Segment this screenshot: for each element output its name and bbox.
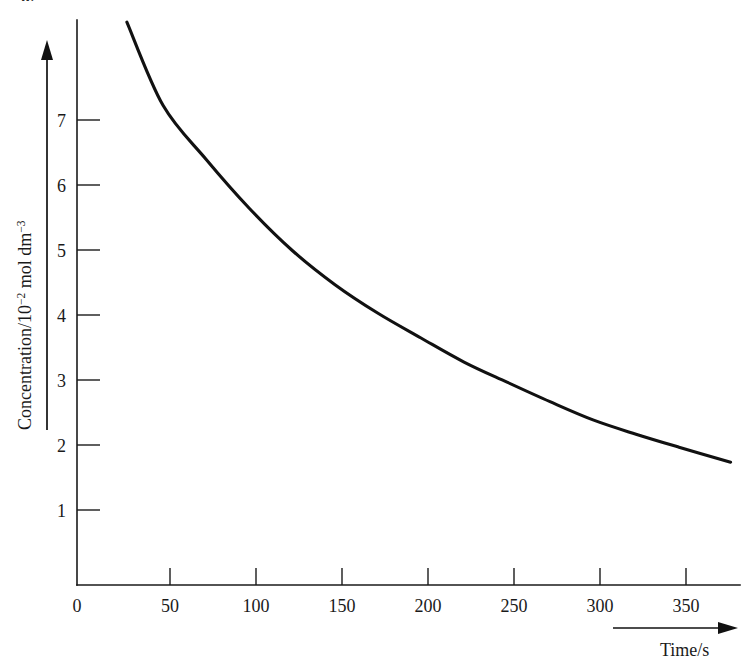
y-axis-ticks — [77, 120, 100, 510]
y-tick-label-4: 4 — [57, 306, 66, 326]
x-tick-label-300: 300 — [587, 596, 614, 616]
y-arrow-head — [41, 40, 53, 60]
x-tick-label-150: 150 — [329, 596, 356, 616]
x-axis-ticks — [170, 568, 686, 585]
x-axis-tick-labels: 0 50 100 150 200 250 300 350 — [73, 596, 700, 616]
y-axis-caption: Concentration/10−2 mol dm−3 — [15, 220, 35, 430]
y-caption-part-mid: mol dm — [15, 233, 35, 293]
x-tick-label-0: 0 — [73, 596, 82, 616]
x-axis-arrow — [613, 622, 738, 634]
x-tick-label-350: 350 — [673, 596, 700, 616]
y-tick-label-7: 7 — [57, 111, 66, 131]
y-tick-label-2: 2 — [57, 436, 66, 456]
x-tick-label-250: 250 — [501, 596, 528, 616]
y-tick-label-1: 1 — [57, 501, 66, 521]
y-tick-label-6: 6 — [57, 176, 66, 196]
figure-root: 62 1 2 3 4 5 6 7 — [0, 0, 752, 663]
y-caption-sup-exp2: −3 — [15, 220, 27, 232]
x-tick-label-50: 50 — [161, 596, 179, 616]
y-axis-tick-labels: 1 2 3 4 5 6 7 — [57, 111, 66, 521]
y-caption-part-main: Concentration/10 — [15, 305, 35, 430]
x-axis-caption: Time/s — [660, 640, 709, 660]
y-axis-caption-group: Concentration/10−2 mol dm−3 — [15, 220, 35, 430]
x-tick-label-200: 200 — [415, 596, 442, 616]
x-tick-label-100: 100 — [243, 596, 270, 616]
concentration-decay-curve — [127, 22, 731, 462]
y-tick-label-5: 5 — [57, 241, 66, 261]
y-caption-sup-exp1: −2 — [15, 293, 27, 305]
y-axis-arrow — [41, 40, 53, 430]
concentration-time-chart: 1 2 3 4 5 6 7 0 50 100 150 200 250 300 — [0, 0, 752, 663]
y-tick-label-3: 3 — [57, 371, 66, 391]
x-arrow-head — [718, 622, 738, 634]
